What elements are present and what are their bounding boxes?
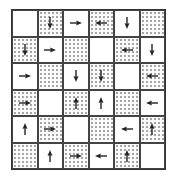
grid-cell-r4-c0	[12, 116, 38, 143]
grid-cell-r4-c3	[89, 116, 115, 143]
arrow-left-icon	[145, 69, 159, 83]
grid-cell-r3-c0	[12, 90, 38, 117]
grid-cell-r5-c5	[140, 143, 166, 170]
grid-cell-r2-c1	[38, 63, 64, 90]
arrow-up-icon	[18, 122, 32, 136]
arrow-left-icon	[145, 96, 159, 110]
grid-cell-r4-c5	[140, 116, 166, 143]
grid-cell-r5-c1	[38, 143, 64, 170]
arrow-left-icon	[120, 43, 134, 57]
grid-cell-r5-c4	[114, 143, 140, 170]
grid-cell-r3-c1	[38, 90, 64, 117]
grid-cell-r0-c3	[89, 10, 115, 37]
grid-cell-r4-c2	[63, 116, 89, 143]
arrow-right-icon	[69, 149, 83, 163]
grid-cell-r2-c2	[63, 63, 89, 90]
grid-cell-r2-c4	[114, 63, 140, 90]
grid-cell-r4-c1	[38, 116, 64, 143]
arrow-down-icon	[43, 16, 57, 30]
arrow-left-icon	[94, 149, 108, 163]
arrow-up-icon	[69, 96, 83, 110]
arrow-down-icon	[69, 69, 83, 83]
arrow-down-icon	[18, 43, 32, 57]
grid-cell-r3-c3	[89, 90, 115, 117]
grid-cell-r3-c4	[114, 90, 140, 117]
arrow-left-icon	[94, 16, 108, 30]
arrow-right-icon	[18, 96, 32, 110]
grid-cell-r0-c5	[140, 10, 166, 37]
grid-cell-r1-c5	[140, 37, 166, 64]
grid-cell-r0-c4	[114, 10, 140, 37]
grid-cell-r5-c0	[12, 143, 38, 170]
arrow-grid	[11, 9, 166, 170]
grid-cell-r2-c0	[12, 63, 38, 90]
grid-cell-r2-c3	[89, 63, 115, 90]
arrow-right-icon	[69, 16, 83, 30]
grid-cell-r2-c5	[140, 63, 166, 90]
grid-cell-r0-c0	[12, 10, 38, 37]
arrow-left-icon	[120, 122, 134, 136]
grid-cell-r4-c4	[114, 116, 140, 143]
grid-cell-r0-c2	[63, 10, 89, 37]
grid-cell-r1-c3	[89, 37, 115, 64]
grid-cell-r1-c2	[63, 37, 89, 64]
arrow-right-icon	[18, 69, 32, 83]
arrow-up-icon	[145, 122, 159, 136]
arrow-down-icon	[94, 69, 108, 83]
arrow-right-icon	[43, 43, 57, 57]
grid-cell-r0-c1	[38, 10, 64, 37]
grid-cell-r3-c2	[63, 90, 89, 117]
grid-cell-r1-c1	[38, 37, 64, 64]
arrow-right-icon	[43, 122, 57, 136]
arrow-up-icon	[120, 149, 134, 163]
arrow-up-icon	[43, 149, 57, 163]
arrow-up-icon	[94, 96, 108, 110]
arrow-down-icon	[120, 16, 134, 30]
grid-cell-r1-c4	[114, 37, 140, 64]
grid-cell-r3-c5	[140, 90, 166, 117]
grid-cell-r5-c3	[89, 143, 115, 170]
arrow-down-icon	[145, 43, 159, 57]
grid-cell-r5-c2	[63, 143, 89, 170]
grid-cell-r1-c0	[12, 37, 38, 64]
